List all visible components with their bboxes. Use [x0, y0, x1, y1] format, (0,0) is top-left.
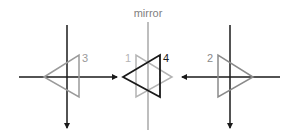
mirror-reflection-diagram: 3 mirror 1 4 2 — [0, 0, 296, 138]
triangle-3 — [44, 55, 79, 97]
mirror-label: mirror — [134, 7, 163, 19]
right-figure — [182, 25, 280, 128]
triangle-2 — [218, 55, 253, 97]
label-1: 1 — [125, 52, 131, 64]
label-2: 2 — [207, 52, 213, 64]
label-3: 3 — [82, 52, 88, 64]
left-figure — [19, 25, 117, 128]
label-4: 4 — [163, 52, 169, 64]
